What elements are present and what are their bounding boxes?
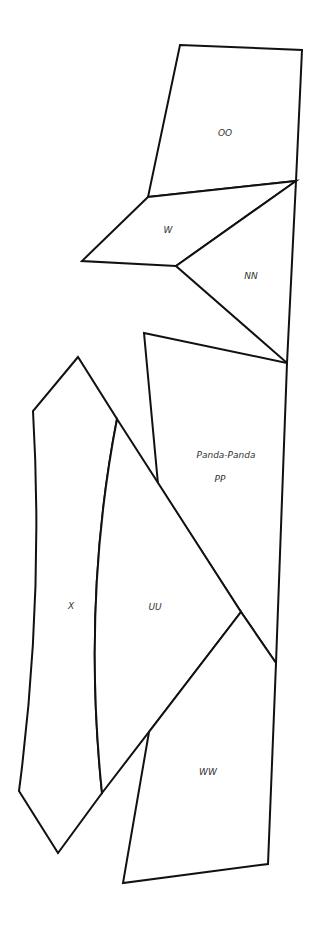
- region-oo: [148, 45, 302, 197]
- label-w: W: [164, 225, 173, 235]
- label-ww: WW: [199, 767, 217, 777]
- label-x: X: [68, 601, 74, 611]
- label-pp-name: Panda-Panda: [197, 450, 256, 460]
- label-pp: PP: [215, 474, 226, 484]
- label-uu: UU: [148, 602, 161, 612]
- diagram-canvas: [0, 0, 311, 929]
- label-oo: OO: [218, 128, 232, 138]
- label-nn: NN: [244, 271, 257, 281]
